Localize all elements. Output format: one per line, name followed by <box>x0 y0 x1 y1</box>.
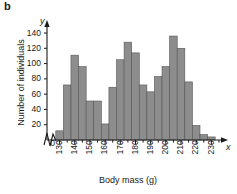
histogram-bar <box>147 92 155 140</box>
x-tick-label: 170 <box>115 140 124 154</box>
bars-group <box>56 36 215 140</box>
y-tick-label: 140 <box>19 29 41 38</box>
histogram-bar <box>124 42 132 140</box>
x-axis-arrow <box>221 137 228 143</box>
histogram-bar <box>132 53 140 140</box>
x-tick-label: 220 <box>191 140 200 154</box>
histogram-bar <box>63 85 71 140</box>
histogram-bar <box>162 67 170 140</box>
y-tick-label: 40 <box>19 105 41 114</box>
x-tick-label: 150 <box>85 140 94 154</box>
y-tick-label: 20 <box>19 120 41 129</box>
histogram-bar <box>79 67 87 140</box>
histogram-bar <box>185 82 193 140</box>
histogram-bar <box>177 48 185 140</box>
x-tick-label: 230 <box>206 140 215 154</box>
x-tick-label: 160 <box>100 140 109 154</box>
histogram-bar <box>71 55 79 140</box>
figure-panel: b y x Number of individuals Body mass (g… <box>0 0 237 194</box>
y-tick-label: 80 <box>19 74 41 83</box>
x-tick-label: 180 <box>130 140 139 154</box>
histogram-bar <box>192 125 200 140</box>
histogram-bar <box>117 60 125 140</box>
x-tick-label: 130 <box>54 140 63 154</box>
x-tick-label: 140 <box>69 140 78 154</box>
y-tick-label: 60 <box>19 90 41 99</box>
x-tick-label: 190 <box>145 140 154 154</box>
y-tick-label: 100 <box>19 59 41 68</box>
x-tick-label: 210 <box>176 140 185 154</box>
y-axis-arrow <box>44 20 49 27</box>
histogram-bar <box>154 77 162 140</box>
y-tick-label: 0 <box>33 139 55 148</box>
histogram-bar <box>170 36 178 140</box>
y-tick-label: 120 <box>19 44 41 53</box>
histogram-bar <box>109 87 117 140</box>
histogram-bar <box>139 85 147 140</box>
histogram-bar <box>94 101 102 140</box>
histogram-bar <box>56 131 64 140</box>
histogram-bar <box>101 124 109 140</box>
histogram-bar <box>200 135 208 140</box>
x-tick-label: 200 <box>161 140 170 154</box>
histogram-bar <box>86 101 94 140</box>
